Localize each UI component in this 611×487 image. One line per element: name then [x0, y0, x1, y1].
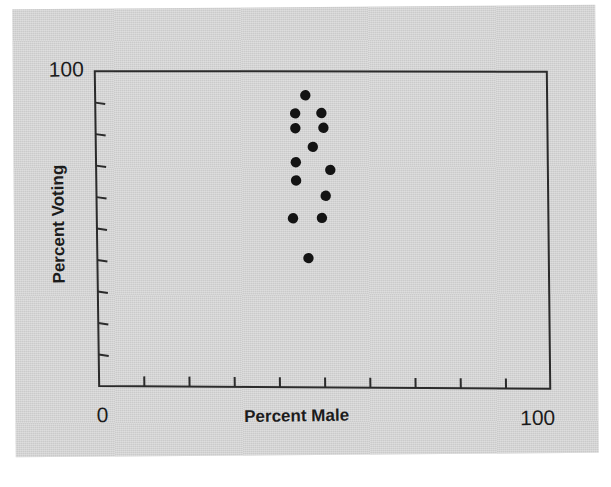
- y-axis-tick: [97, 228, 107, 230]
- data-point: [317, 213, 328, 224]
- data-point: [320, 191, 331, 202]
- y-axis-tick: [98, 323, 108, 325]
- scatter-plot-figure: 100 0 100 Percent Male Percent Voting: [0, 0, 611, 487]
- data-point: [303, 253, 314, 264]
- data-point: [325, 165, 336, 176]
- y-axis-tick: [98, 291, 108, 293]
- x-axis-ticks: [144, 371, 506, 393]
- data-point: [288, 213, 299, 224]
- data-point: [308, 142, 319, 153]
- data-point: [291, 157, 302, 168]
- x-axis-max-tick-label: 100: [520, 406, 555, 429]
- y-axis-tick: [95, 102, 105, 104]
- data-point: [316, 108, 327, 119]
- plot-svg: 100 0 100 Percent Male Percent Voting: [0, 0, 611, 487]
- x-axis-title: Percent Male: [244, 406, 349, 426]
- y-axis-max-tick-label: 100: [49, 57, 84, 80]
- data-point: [290, 108, 301, 119]
- data-point: [318, 123, 329, 134]
- y-axis-tick: [97, 260, 107, 262]
- y-axis-tick: [96, 165, 106, 167]
- data-point: [291, 175, 302, 186]
- y-axis-tick: [99, 354, 109, 356]
- y-axis-tick: [96, 134, 106, 136]
- x-axis-min-tick-label: 0: [97, 403, 109, 426]
- data-point: [290, 123, 301, 134]
- data-point: [300, 90, 311, 101]
- data-point-group: [286, 90, 337, 264]
- y-axis-tick: [97, 197, 107, 199]
- y-axis-title: Percent Voting: [48, 165, 69, 284]
